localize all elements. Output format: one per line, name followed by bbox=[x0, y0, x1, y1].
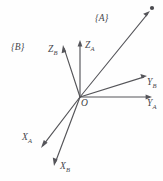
axis-label-z-b: ZB bbox=[48, 45, 58, 56]
axis-label-z-b-sub: B bbox=[53, 49, 57, 56]
axis-label-x-b-sub: B bbox=[66, 166, 70, 173]
axis-label-z-a-sub: A bbox=[90, 45, 94, 52]
axis-label-y-b-sub: B bbox=[152, 82, 156, 89]
frame-label-a: {A} bbox=[95, 14, 108, 24]
figure-canvas: {A} {B} O XA YA ZA XB YB ZB bbox=[0, 0, 163, 181]
axis-label-z-a: ZA bbox=[85, 41, 95, 52]
axis-label-y-b: YB bbox=[147, 78, 157, 89]
axis-label-y-a-sub: A bbox=[152, 103, 156, 110]
vector-diagram-svg bbox=[0, 0, 163, 181]
origin-label: O bbox=[81, 99, 88, 109]
axis-x-b bbox=[53, 97, 80, 166]
axis-x-a bbox=[41, 97, 80, 148]
axis-label-y-a: YA bbox=[147, 99, 157, 110]
axis-label-x-a: XA bbox=[22, 133, 32, 144]
frame-label-b: {B} bbox=[11, 43, 24, 53]
axis-y-a bbox=[80, 95, 152, 100]
axis-z-a bbox=[78, 40, 83, 97]
axis-label-x-b: XB bbox=[60, 162, 70, 173]
axis-label-x-a-sub: A bbox=[28, 137, 32, 144]
axis-z-b bbox=[62, 45, 80, 97]
